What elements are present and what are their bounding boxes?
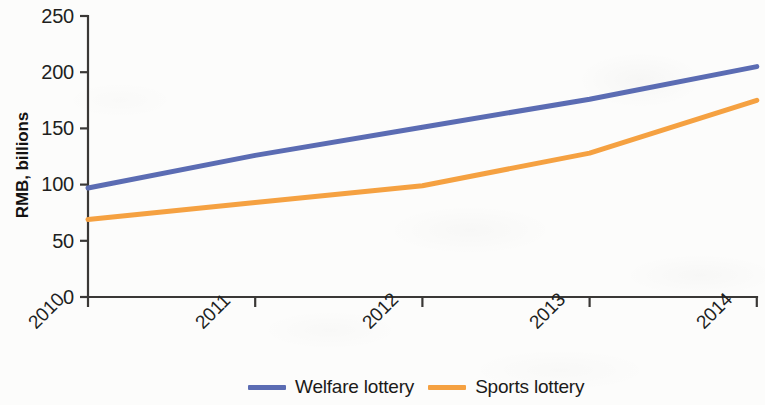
legend-swatch-sports-lottery — [428, 385, 466, 390]
plot-area — [0, 0, 765, 405]
chart-legend: Welfare lottery Sports lottery — [248, 376, 584, 398]
legend-item-welfare-lottery[interactable]: Welfare lottery — [248, 376, 414, 398]
legend-swatch-welfare-lottery — [248, 385, 286, 390]
y-tick-label-150: 150 — [30, 117, 74, 140]
y-axis-ticks — [80, 16, 88, 297]
legend-item-sports-lottery[interactable]: Sports lottery — [428, 376, 584, 398]
series-line-sports-lottery — [88, 100, 757, 219]
y-tick-label-50: 50 — [30, 230, 74, 253]
line-chart-figure: 250 200 150 100 50 0 2010 2011 2012 2013… — [0, 0, 765, 405]
legend-label-welfare-lottery: Welfare lottery — [295, 376, 414, 398]
x-axis-ticks — [88, 297, 757, 307]
y-tick-label-100: 100 — [30, 173, 74, 196]
legend-label-sports-lottery: Sports lottery — [475, 376, 584, 398]
series-line-welfare-lottery — [88, 67, 757, 188]
y-tick-label-250: 250 — [30, 5, 74, 28]
y-axis-title: RMB, billions — [13, 100, 33, 230]
y-tick-label-200: 200 — [30, 61, 74, 84]
